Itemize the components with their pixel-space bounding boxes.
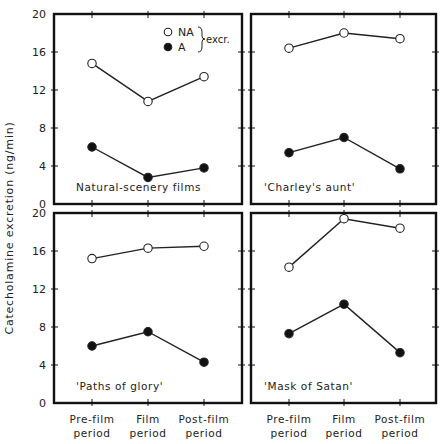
data-point-na	[340, 215, 348, 223]
y-tick-label: 12	[32, 84, 46, 97]
y-tick-label: 20	[32, 8, 46, 21]
series-line-na	[289, 219, 400, 267]
data-point-a	[285, 149, 293, 157]
y-tick-label: 16	[32, 46, 46, 59]
legend-marker-na	[164, 28, 172, 36]
data-point-a	[285, 329, 293, 337]
data-point-na	[340, 29, 348, 37]
series-line-na	[92, 63, 204, 101]
data-point-na	[88, 59, 96, 67]
x-category-label: period	[381, 427, 418, 439]
y-tick-label: 4	[39, 160, 46, 173]
panel-frame	[54, 213, 242, 403]
panels: 048121620Natural-scenery films'Charley's…	[32, 8, 439, 439]
y-tick-label: 12	[32, 283, 46, 296]
legend-marker-a	[164, 43, 172, 51]
y-tick-label: 16	[32, 245, 46, 258]
data-point-a	[396, 348, 404, 356]
panel-title: 'Paths of glory'	[76, 380, 163, 392]
x-category-label: Post-film	[179, 413, 230, 425]
x-category-label: period	[129, 427, 166, 439]
y-tick-label: 0	[39, 397, 46, 410]
panel-bottom-left: 048121620'Paths of glory'Pre-filmperiodF…	[32, 207, 245, 439]
panel-title: 'Mask of Satan'	[264, 380, 353, 392]
x-category-label: Pre-film	[266, 413, 311, 425]
legend: NAAexcr.	[164, 26, 229, 54]
data-point-a	[88, 143, 96, 151]
y-tick-label: 20	[32, 207, 46, 220]
x-category-label: period	[73, 427, 110, 439]
y-tick-label: 8	[39, 321, 46, 334]
series-line-a	[289, 304, 400, 352]
x-category-label: Post-film	[375, 413, 426, 425]
data-point-na	[88, 254, 96, 262]
panel-title: Natural-scenery films	[76, 181, 201, 193]
y-tick-label: 8	[39, 122, 46, 135]
y-axis-label: Catecholamine excretion (ng/min)	[3, 121, 16, 334]
legend-group-label: excr.	[206, 34, 230, 45]
legend-label-a: A	[178, 41, 186, 54]
data-point-na	[396, 224, 404, 232]
data-point-na	[285, 44, 293, 52]
catecholamine-chart: Catecholamine excretion (ng/min) 0481216…	[0, 0, 442, 444]
data-point-a	[340, 133, 348, 141]
x-category-label: period	[270, 427, 307, 439]
legend-brace	[198, 27, 205, 52]
panel-title: 'Charley's aunt'	[264, 181, 355, 193]
data-point-na	[200, 242, 208, 250]
data-point-a	[144, 328, 152, 336]
data-point-na	[285, 263, 293, 271]
panel-top-right: 'Charley's aunt'	[248, 11, 439, 207]
data-point-a	[200, 164, 208, 172]
data-point-na	[200, 73, 208, 81]
data-point-a	[88, 342, 96, 350]
y-tick-label: 4	[39, 359, 46, 372]
x-category-label: Film	[136, 413, 160, 425]
x-category-label: Film	[332, 413, 356, 425]
legend-label-na: NA	[178, 26, 194, 39]
data-point-a	[396, 165, 404, 173]
x-category-label: period	[325, 427, 362, 439]
data-point-na	[144, 244, 152, 252]
x-category-label: period	[185, 427, 222, 439]
panel-bottom-right: 'Mask of Satan'Pre-filmperiodFilmperiodP…	[248, 210, 439, 439]
panel-frame	[251, 14, 436, 204]
data-point-a	[200, 358, 208, 366]
data-point-a	[340, 300, 348, 308]
data-point-na	[396, 35, 404, 43]
data-point-na	[144, 97, 152, 105]
x-category-label: Pre-film	[69, 413, 114, 425]
